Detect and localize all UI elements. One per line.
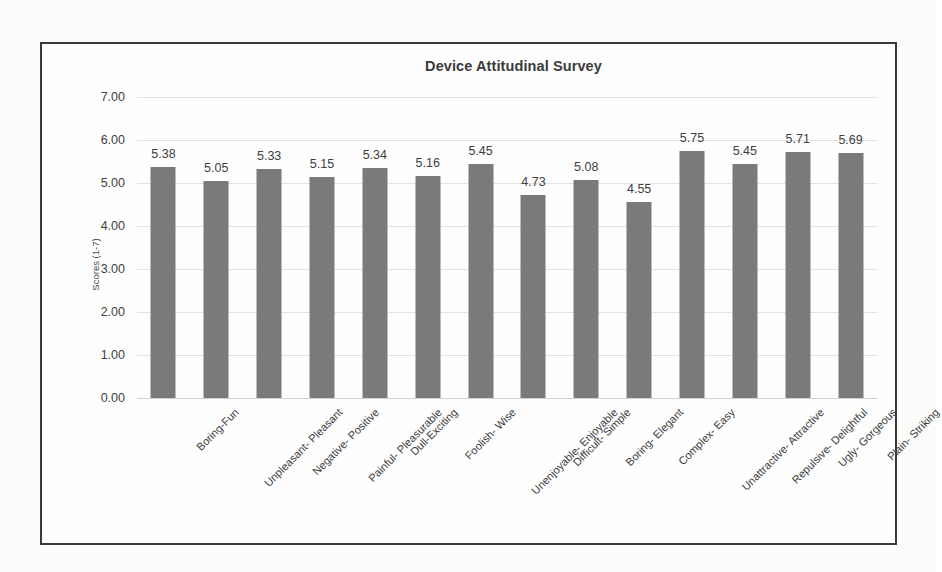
bar-slot: 5.05	[190, 97, 243, 398]
x-axis-tick-label: Negative- Positive	[310, 406, 381, 477]
bar-value-label: 5.45	[468, 144, 492, 158]
gridline	[137, 398, 877, 399]
bar-value-label: 5.16	[416, 156, 440, 170]
bar[interactable]	[785, 152, 810, 398]
bar[interactable]	[679, 151, 704, 398]
bar[interactable]	[627, 202, 652, 398]
y-axis-title: Scores (1-7)	[90, 220, 101, 310]
chart-frame: Device Attitudinal Survey Scores (1-7) 7…	[40, 42, 897, 545]
bar-value-label: 5.05	[204, 161, 228, 175]
y-axis-tick-label: 1.00	[101, 348, 125, 362]
y-axis-tick-label: 3.00	[101, 262, 125, 276]
bar-slot: 5.75	[666, 97, 719, 398]
bar[interactable]	[838, 153, 863, 398]
bar-slot: 5.45	[718, 97, 771, 398]
bar-value-label: 5.33	[257, 149, 281, 163]
bar-value-label: 5.75	[680, 131, 704, 145]
bar[interactable]	[257, 169, 282, 398]
bar-value-label: 4.55	[627, 182, 651, 196]
x-axis-tick-label: Foolish- Wise	[462, 406, 518, 462]
x-axis-tick-label: Complex- Easy	[676, 406, 737, 467]
bar[interactable]	[204, 181, 229, 398]
bar-slot: 5.45	[454, 97, 507, 398]
bar[interactable]	[309, 177, 334, 398]
bar-value-label: 5.34	[363, 148, 387, 162]
y-axis-tick-label: 5.00	[101, 176, 125, 190]
bar-value-label: 5.15	[310, 157, 334, 171]
bar-series: 5.385.055.335.155.345.165.454.735.084.55…	[137, 97, 877, 398]
bar[interactable]	[415, 176, 440, 398]
bar-value-label: 5.38	[151, 147, 175, 161]
bar-slot: 4.55	[613, 97, 666, 398]
bar-slot: 5.38	[137, 97, 190, 398]
y-axis-tick-label: 2.00	[101, 305, 125, 319]
bar-value-label: 5.69	[838, 133, 862, 147]
bar-slot: 5.15	[296, 97, 349, 398]
y-axis-tick-label: 0.00	[101, 391, 125, 405]
bar-value-label: 5.45	[733, 144, 757, 158]
bar-value-label: 4.73	[521, 175, 545, 189]
x-axis-tick-labels: Boring-FunUnpleasant- PleasantNegative- …	[137, 402, 877, 542]
bar[interactable]	[468, 164, 493, 398]
y-axis-tick-label: 4.00	[101, 219, 125, 233]
chart-title: Device Attitudinal Survey	[42, 58, 895, 74]
bar[interactable]	[521, 195, 546, 398]
bar-value-label: 5.08	[574, 160, 598, 174]
bar-slot: 5.08	[560, 97, 613, 398]
bar-slot: 5.33	[243, 97, 296, 398]
y-axis-tick-label: 7.00	[101, 90, 125, 104]
bar[interactable]	[732, 164, 757, 398]
bar-value-label: 5.71	[786, 132, 810, 146]
x-axis-tick-label: Unenjoyable- Enjoyable	[529, 406, 620, 497]
bar[interactable]	[151, 167, 176, 398]
x-axis-tick-label: Unattractive- Attractive	[739, 406, 826, 493]
bar[interactable]	[362, 168, 387, 398]
bar[interactable]	[574, 180, 599, 398]
bar-slot: 5.71	[771, 97, 824, 398]
bar-slot: 5.16	[401, 97, 454, 398]
bar-slot: 5.69	[824, 97, 877, 398]
y-axis-tick-label: 6.00	[101, 133, 125, 147]
bar-slot: 4.73	[507, 97, 560, 398]
bar-slot: 5.34	[348, 97, 401, 398]
plot-area: 7.006.005.004.003.002.001.000.00 5.385.0…	[137, 97, 877, 398]
x-axis-tick-label: Boring-Fun	[194, 406, 241, 453]
